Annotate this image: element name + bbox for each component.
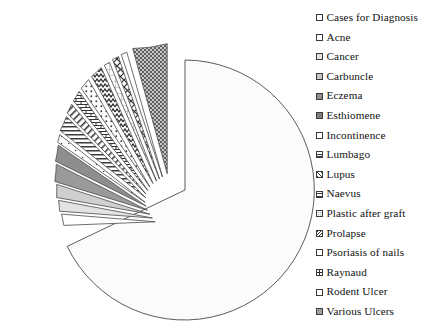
legend-label-various-ulcers: Various Ulcers bbox=[327, 302, 395, 322]
legend-swatch-acne bbox=[316, 34, 323, 41]
legend-swatch-eczema bbox=[316, 93, 323, 100]
legend-label-eczema: Eczema bbox=[327, 86, 363, 106]
legend-swatch-naevus bbox=[316, 191, 323, 198]
legend-item-rodent-ulcer[interactable]: Rodent Ulcer bbox=[316, 282, 431, 302]
legend-item-psoriasis-of-nails[interactable]: Psoriasis of nails bbox=[316, 243, 431, 263]
legend-item-cancer[interactable]: Cancer bbox=[316, 47, 431, 67]
legend-swatch-rodent-ulcer bbox=[316, 289, 323, 296]
legend-item-lumbago[interactable]: Lumbago bbox=[316, 145, 431, 165]
legend-label-rodent-ulcer: Rodent Ulcer bbox=[327, 282, 388, 302]
pie-slices bbox=[55, 44, 315, 320]
legend-swatch-esthiomene bbox=[316, 112, 323, 119]
legend-item-carbuncle[interactable]: Carbuncle bbox=[316, 67, 431, 87]
legend-item-cases-for-diagnosis[interactable]: Cases for Diagnosis bbox=[316, 8, 431, 28]
legend-label-raynaud: Raynaud bbox=[327, 263, 367, 283]
legend-label-psoriasis-of-nails: Psoriasis of nails bbox=[327, 243, 405, 263]
legend-swatch-various-ulcers bbox=[316, 308, 323, 315]
pie-chart-canvas bbox=[0, 0, 316, 330]
legend-swatch-cancer bbox=[316, 53, 323, 60]
legend-item-various-ulcers[interactable]: Various Ulcers bbox=[316, 302, 431, 322]
legend-swatch-plastic-after-graft bbox=[316, 210, 323, 217]
legend-label-naevus: Naevus bbox=[327, 184, 361, 204]
legend-swatch-lupus bbox=[316, 171, 323, 178]
legend-label-incontinence: Incontinence bbox=[327, 126, 386, 146]
legend-label-esthiomene: Esthiomene bbox=[327, 106, 381, 126]
legend-item-plastic-after-graft[interactable]: Plastic after graft bbox=[316, 204, 431, 224]
legend-swatch-lumbago bbox=[316, 151, 323, 158]
legend-item-esthiomene[interactable]: Esthiomene bbox=[316, 106, 431, 126]
legend-swatch-psoriasis-of-nails bbox=[316, 249, 323, 256]
legend-label-lupus: Lupus bbox=[327, 165, 355, 185]
legend-swatch-prolapse bbox=[316, 230, 323, 237]
legend-label-cases-for-diagnosis: Cases for Diagnosis bbox=[327, 8, 418, 28]
pie-chart-figure: Cases for Diagnosis Acne Cancer Carbuncl… bbox=[0, 0, 431, 330]
legend-label-acne: Acne bbox=[327, 28, 351, 48]
legend-label-cancer: Cancer bbox=[327, 47, 359, 67]
legend-item-acne[interactable]: Acne bbox=[316, 28, 431, 48]
legend-label-prolapse: Prolapse bbox=[327, 224, 366, 244]
legend-label-plastic-after-graft: Plastic after graft bbox=[327, 204, 406, 224]
legend-label-lumbago: Lumbago bbox=[327, 145, 371, 165]
legend-item-raynaud[interactable]: Raynaud bbox=[316, 263, 431, 283]
legend-swatch-carbuncle bbox=[316, 73, 323, 80]
legend-item-incontinence[interactable]: Incontinence bbox=[316, 126, 431, 146]
legend-item-prolapse[interactable]: Prolapse bbox=[316, 224, 431, 244]
chart-legend: Cases for Diagnosis Acne Cancer Carbuncl… bbox=[316, 8, 431, 322]
legend-swatch-raynaud bbox=[316, 269, 323, 276]
legend-label-carbuncle: Carbuncle bbox=[327, 67, 374, 87]
legend-swatch-cases-for-diagnosis bbox=[316, 14, 323, 21]
legend-swatch-incontinence bbox=[316, 132, 323, 139]
legend-item-naevus[interactable]: Naevus bbox=[316, 184, 431, 204]
legend-item-eczema[interactable]: Eczema bbox=[316, 86, 431, 106]
legend-item-lupus[interactable]: Lupus bbox=[316, 165, 431, 185]
